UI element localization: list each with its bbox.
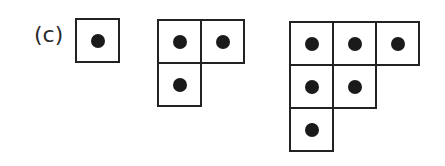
grid-cell <box>157 19 202 64</box>
grid-cell <box>332 64 377 109</box>
grid-cell <box>157 62 202 107</box>
grid-cell <box>289 64 334 109</box>
dot-icon <box>348 80 362 94</box>
figure-label: (c) <box>34 22 63 47</box>
dot-icon <box>173 78 187 92</box>
grid-cell <box>332 21 377 66</box>
grid-cell <box>75 18 120 63</box>
grid-cell <box>289 107 334 152</box>
dot-icon <box>216 35 230 49</box>
dot-icon <box>305 37 319 51</box>
dot-icon <box>348 37 362 51</box>
dot-icon <box>391 37 405 51</box>
dot-icon <box>305 80 319 94</box>
grid-cell <box>289 21 334 66</box>
grid-cell <box>200 19 245 64</box>
grid-cell <box>375 21 420 66</box>
dot-icon <box>173 35 187 49</box>
dot-icon <box>305 123 319 137</box>
dot-icon <box>91 34 105 48</box>
